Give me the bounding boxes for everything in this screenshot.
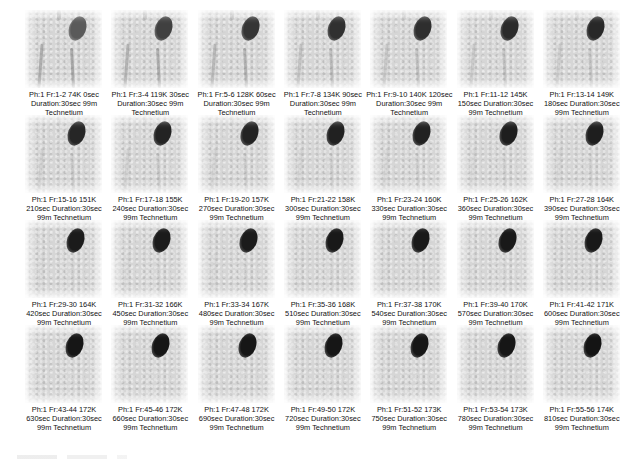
panel-vignette [284,115,361,193]
caption-line1: Ph:1 Fr:15-16 151K [21,195,107,204]
caption-line2: 420sec Duration:30sec [21,309,107,318]
scan-image [457,220,534,298]
caption-line1: Ph:1 Fr:51-52 173K [366,405,452,414]
frame-caption: Ph:1 Fr:47-48 172K690sec Duration:30sec9… [194,405,280,432]
scan-image [370,115,447,193]
caption-line2: Duration:30sec 99m [194,99,280,108]
caption-line1: Ph:1 Fr:9-10 140K 120sec [366,90,452,99]
scan-image [370,325,447,403]
frame-caption: Ph:1 Fr:51-52 173K750sec Duration:30sec9… [366,405,452,432]
caption-line1: Ph:1 Fr:37-38 170K [366,300,452,309]
scintigraphy-frame-grid: Ph:1 Fr:1-2 74K 0secDuration:30sec 99mTe… [0,0,628,464]
caption-line3: 99m Technetium [21,423,107,432]
caption-line3: 99m Technetium [194,423,280,432]
scan-image [370,220,447,298]
caption-line2: 150sec Duration:30sec [453,99,539,108]
scan-image [111,10,188,88]
scan-image [25,115,102,193]
scan-image [543,115,620,193]
caption-line2: 510sec Duration:30sec [280,309,366,318]
frame-caption: Ph:1 Fr:39-40 170K570sec Duration:30sec9… [453,300,539,327]
frame-caption: Ph:1 Fr:53-54 173K780sec Duration:30sec9… [453,405,539,432]
scan-image [198,10,275,88]
caption-line2: 720sec Duration:30sec [280,414,366,423]
frame-caption: Ph:1 Fr:1-2 74K 0secDuration:30sec 99mTe… [21,90,107,117]
scan-image [284,10,361,88]
panel-vignette [25,115,102,193]
scan-image [111,115,188,193]
scan-image [111,220,188,298]
caption-line2: 450sec Duration:30sec [107,309,193,318]
frame-caption: Ph:1 Fr:9-10 140K 120secDuration:30sec 9… [366,90,452,117]
caption-line2: 240sec Duration:30sec [107,204,193,213]
frame-caption: Ph:1 Fr:33-34 167K480sec Duration:30sec9… [194,300,280,327]
frame-caption: Ph:1 Fr:23-24 160K330sec Duration:30sec9… [366,195,452,222]
scan-image [25,325,102,403]
caption-line3: 99m Technetium [280,423,366,432]
caption-line2: Duration:30sec 99m [21,99,107,108]
panel-vignette [370,10,447,88]
frame-caption: Ph:1 Fr:5-6 128K 60secDuration:30sec 99m… [194,90,280,117]
scan-image [543,325,620,403]
frame-caption: Ph:1 Fr:49-50 172K720sec Duration:30sec9… [280,405,366,432]
frame-caption: Ph:1 Fr:45-46 172K660sec Duration:30sec9… [107,405,193,432]
frame-caption: Ph:1 Fr:55-56 174K810sec Duration:30sec9… [539,405,625,432]
panel-vignette [198,10,275,88]
caption-line2: 810sec Duration:30sec [539,414,625,423]
panel-vignette [457,10,534,88]
caption-line3: 99m Technetium [107,423,193,432]
frame-caption: Ph:1 Fr:13-14 149K180sec Duration:30sec9… [539,90,625,117]
scan-image [25,10,102,88]
panel-vignette [543,220,620,298]
caption-line1: Ph:1 Fr:23-24 160K [366,195,452,204]
caption-line1: Ph:1 Fr:29-30 164K [21,300,107,309]
caption-line1: Ph:1 Fr:5-6 128K 60sec [194,90,280,99]
frame-caption: Ph:1 Fr:29-30 164K420sec Duration:30sec9… [21,300,107,327]
caption-line3: 99m Technetium [453,423,539,432]
panel-vignette [284,220,361,298]
caption-line1: Ph:1 Fr:45-46 172K [107,405,193,414]
panel-vignette [284,10,361,88]
caption-line1: Ph:1 Fr:19-20 157K [194,195,280,204]
caption-line1: Ph:1 Fr:49-50 172K [280,405,366,414]
caption-line2: 570sec Duration:30sec [453,309,539,318]
caption-line1: Ph:1 Fr:41-42 171K [539,300,625,309]
scan-image [457,325,534,403]
caption-line1: Ph:1 Fr:25-26 162K [453,195,539,204]
panel-vignette [25,220,102,298]
caption-line1: Ph:1 Fr:31-32 166K [107,300,193,309]
caption-line1: Ph:1 Fr:13-14 149K [539,90,625,99]
panel-vignette [111,115,188,193]
caption-line3: 99m Technetium [539,423,625,432]
caption-line1: Ph:1 Fr:7-8 134K 90sec [280,90,366,99]
caption-line1: Ph:1 Fr:33-34 167K [194,300,280,309]
caption-line1: Ph:1 Fr:53-54 173K [453,405,539,414]
frame-caption: Ph:1 Fr:25-26 162K360sec Duration:30sec9… [453,195,539,222]
scan-image [198,115,275,193]
caption-line1: Ph:1 Fr:35-36 168K [280,300,366,309]
panel-vignette [198,220,275,298]
scan-image [543,220,620,298]
panel-vignette [457,220,534,298]
frame-caption: Ph:1 Fr:21-22 158K300sec Duration:30sec9… [280,195,366,222]
panel-vignette [543,10,620,88]
frame-caption: Ph:1 Fr:15-16 151K210sec Duration:30sec9… [21,195,107,222]
panel-vignette [111,10,188,88]
scan-image [198,325,275,403]
caption-line3: 99m Technetium [366,423,452,432]
frame-caption: Ph:1 Fr:17-18 155K240sec Duration:30sec9… [107,195,193,222]
caption-line2: 330sec Duration:30sec [366,204,452,213]
scan-image [457,10,534,88]
caption-line2: 780sec Duration:30sec [453,414,539,423]
caption-line2: 270sec Duration:30sec [194,204,280,213]
panel-vignette [543,325,620,403]
panel-vignette [198,325,275,403]
caption-line2: Duration:30sec 99m [280,99,366,108]
frame-caption: Ph:1 Fr:31-32 166K450sec Duration:30sec9… [107,300,193,327]
caption-line1: Ph:1 Fr:21-22 158K [280,195,366,204]
panel-vignette [370,115,447,193]
scan-image [457,115,534,193]
frame-caption: Ph:1 Fr:41-42 171K600sec Duration:30sec9… [539,300,625,327]
panel-vignette [25,325,102,403]
caption-line1: Ph:1 Fr:1-2 74K 0sec [21,90,107,99]
